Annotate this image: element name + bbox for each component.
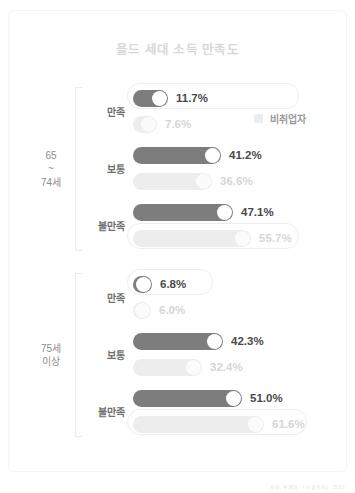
page-title: 욜드 세대 소득 만족도 <box>9 39 346 58</box>
bar-employed: 6.8% <box>133 271 321 297</box>
bar-knob-icon <box>196 174 211 189</box>
bar-pair: 47.1% 55.7% <box>133 199 321 251</box>
bar-unemployed: 55.7% <box>133 225 321 251</box>
bar-track-unemployed <box>133 302 151 319</box>
bar-track-employed <box>133 333 223 350</box>
bar-track-employed <box>133 90 168 107</box>
chart-card: 욜드 세대 소득 만족도 취업자 비취업자 65 ~ 74세 만족 <box>8 10 347 472</box>
age-group-label-75-plus: 75세 이상 <box>31 269 71 441</box>
bar-value-employed: 42.3% <box>231 335 264 347</box>
bar-unemployed: 7.6% <box>133 111 321 137</box>
bar-value-unemployed: 61.6% <box>272 418 305 430</box>
age-group-label-line-0: 75세 <box>41 342 61 356</box>
bar-knob-icon <box>152 91 167 106</box>
bar-value-employed: 11.7% <box>176 92 208 104</box>
bar-knob-icon <box>226 391 241 406</box>
age-group-label-65-74: 65 ~ 74세 <box>31 83 71 255</box>
bar-track-employed <box>133 147 221 164</box>
bar-unemployed: 32.4% <box>133 354 321 380</box>
bar-knob-icon <box>205 148 220 163</box>
row-label: 불만족 <box>83 404 125 419</box>
bar-employed: 51.0% <box>133 385 321 411</box>
bar-track-unemployed <box>133 359 202 376</box>
bar-unemployed: 6.0% <box>133 297 321 323</box>
bar-track-unemployed <box>133 416 264 433</box>
bar-knob-icon <box>248 417 263 432</box>
bar-employed: 11.7% <box>133 85 321 111</box>
bar-pair: 41.2% 36.6% <box>133 142 321 194</box>
bar-value-unemployed: 32.4% <box>210 361 243 373</box>
bar-rows: 만족 6.8% 6.0% <box>83 269 321 440</box>
age-group-label-line-1: ~ <box>48 162 54 176</box>
bar-knob-icon <box>136 277 151 292</box>
bar-employed: 42.3% <box>133 328 321 354</box>
source-note: 자료: 통계청 「사회조사」 2017 <box>270 483 345 490</box>
bar-row-dissatisfied: 불만족 47.1% 55.7% <box>83 197 321 254</box>
row-label: 보통 <box>83 161 125 176</box>
bar-employed: 41.2% <box>133 142 321 168</box>
bar-row-moderate: 보통 42.3% 32.4% <box>83 326 321 383</box>
bar-track-unemployed <box>133 116 157 133</box>
bar-track-employed <box>133 204 233 221</box>
row-label: 보통 <box>83 347 125 362</box>
bar-value-employed: 41.2% <box>229 149 262 161</box>
age-group-label-line-1: 이상 <box>42 355 60 369</box>
bar-knob-icon <box>186 360 201 375</box>
bar-track-unemployed <box>133 173 212 190</box>
bar-value-employed: 47.1% <box>241 206 274 218</box>
bar-row-moderate: 보통 41.2% 36.6% <box>83 140 321 197</box>
bar-row-dissatisfied: 불만족 51.0% 61.6% <box>83 383 321 440</box>
bar-pair: 51.0% 61.6% <box>133 385 321 437</box>
bar-value-unemployed: 36.6% <box>220 175 253 187</box>
bar-track-employed <box>133 390 242 407</box>
bar-unemployed: 61.6% <box>133 411 321 437</box>
bar-track-employed <box>133 276 152 293</box>
bar-value-unemployed: 6.0% <box>159 304 185 316</box>
age-group-label-line-0: 65 <box>45 149 56 163</box>
bar-pair: 42.3% 32.4% <box>133 328 321 380</box>
bar-track-unemployed <box>133 230 251 247</box>
bar-employed: 47.1% <box>133 199 321 225</box>
row-label: 만족 <box>83 290 125 305</box>
bar-row-satisfied: 만족 6.8% 6.0% <box>83 269 321 326</box>
bar-rows: 만족 11.7% 7.6% <box>83 83 321 254</box>
bar-knob-icon <box>217 205 232 220</box>
bar-pair: 6.8% 6.0% <box>133 271 321 323</box>
bar-pair: 11.7% 7.6% <box>133 85 321 137</box>
group-bracket <box>75 87 82 251</box>
bar-value-employed: 6.8% <box>160 278 186 290</box>
age-group-label-line-2: 74세 <box>41 176 61 190</box>
bar-value-unemployed: 55.7% <box>259 232 292 244</box>
bar-value-employed: 51.0% <box>250 392 283 404</box>
group-bracket <box>75 273 82 437</box>
bar-knob-icon <box>141 117 156 132</box>
bar-row-satisfied: 만족 11.7% 7.6% <box>83 83 321 140</box>
bar-knob-icon <box>135 303 150 318</box>
bar-knob-icon <box>235 231 250 246</box>
row-label: 만족 <box>83 104 125 119</box>
bar-value-unemployed: 7.6% <box>165 118 191 130</box>
row-label: 불만족 <box>83 218 125 233</box>
bar-unemployed: 36.6% <box>133 168 321 194</box>
bar-knob-icon <box>207 334 222 349</box>
